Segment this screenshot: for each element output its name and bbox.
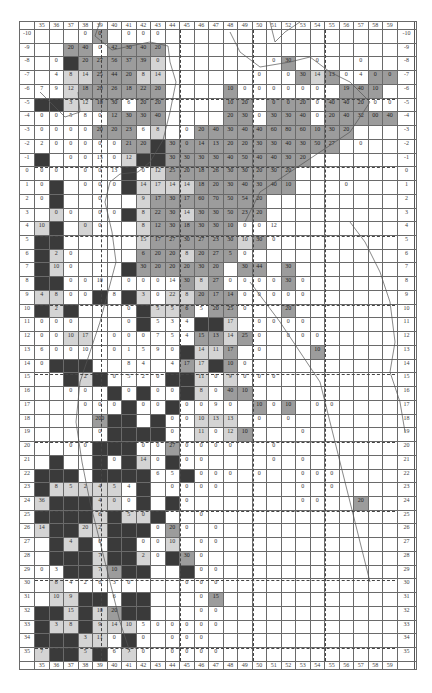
row-label-left: -7 — [20, 71, 35, 85]
grid-cell: 14 — [165, 181, 180, 195]
grid-cell — [122, 428, 137, 442]
grid-cell: 50 — [238, 153, 253, 167]
grid-table: 3536373839404142434445464748495051525354… — [19, 21, 417, 670]
grid-row: 33389141050000033 — [20, 620, 417, 634]
grid-cell — [93, 359, 108, 373]
grid-cell — [64, 236, 79, 250]
grid-cell: 0 — [122, 318, 137, 332]
grid-cell — [281, 648, 296, 662]
grid-cell — [136, 579, 151, 593]
grid-cell: 3 — [136, 290, 151, 304]
grid-cell: 0 — [310, 496, 325, 510]
grid-cell: 5 — [122, 373, 137, 387]
grid-cell: 23 — [209, 236, 224, 250]
grid-cell — [238, 565, 253, 579]
grid-cell — [281, 620, 296, 634]
grid-cell — [368, 318, 383, 332]
grid-cell — [339, 208, 354, 222]
row-label-left: 13 — [20, 345, 35, 359]
grid-cell: 20 — [78, 57, 93, 71]
grid-cell — [151, 359, 166, 373]
grid-cell — [325, 222, 340, 236]
grid-cell — [122, 181, 137, 195]
grid-cell — [35, 442, 50, 456]
grid-cell: 40 — [296, 112, 311, 126]
grid-cell — [354, 414, 369, 428]
grid-cell: 36 — [35, 496, 50, 510]
grid-cell — [296, 359, 311, 373]
grid-cell — [325, 593, 340, 607]
grid-cell — [325, 181, 340, 195]
grid-cell: 80 — [281, 126, 296, 140]
grid-cell: 15 — [64, 606, 79, 620]
grid-cell: 27 — [165, 236, 180, 250]
grid-cell: 22 — [165, 290, 180, 304]
grid-cell — [252, 538, 267, 552]
grid-cell: 9 — [136, 194, 151, 208]
grid-row: 71003020202030203044307 — [20, 263, 417, 277]
grid-cell: 20 — [107, 126, 122, 140]
row-label-left: -3 — [20, 126, 35, 140]
grid-cell — [383, 236, 398, 250]
grid-cell: 32 — [354, 112, 369, 126]
row-label-right: -8 — [397, 57, 416, 71]
grid-row: 19001101210019 — [20, 428, 417, 442]
grid-cell: 20 — [238, 98, 253, 112]
grid-cell — [49, 551, 64, 565]
grid-cell: 13 — [107, 167, 122, 181]
grid-cell — [383, 565, 398, 579]
grid-cell: 0 — [165, 414, 180, 428]
grid-cell: 20 — [296, 98, 311, 112]
grid-cell: 20 — [151, 249, 166, 263]
grid-cell: 14 — [180, 181, 195, 195]
grid-cell: 10 — [49, 593, 64, 607]
grid-cell — [122, 194, 137, 208]
grid-cell: 20 — [209, 304, 224, 318]
grid-cell — [383, 332, 398, 346]
grid-cell — [339, 565, 354, 579]
grid-cell — [339, 57, 354, 71]
grid-cell — [354, 648, 369, 662]
grid-cell: 5 — [194, 304, 209, 318]
grid-cell: 12 — [122, 153, 137, 167]
grid-cell: 2 — [78, 483, 93, 497]
grid-cell — [368, 345, 383, 359]
grid-cell — [383, 442, 398, 456]
column-label: 49 — [238, 22, 253, 30]
grid-cell: 0 — [383, 71, 398, 85]
grid-cell: 0 — [151, 30, 166, 44]
grid-cell: 00 — [368, 112, 383, 126]
grid-cell: 0 — [151, 290, 166, 304]
row-label-right: 10 — [397, 304, 416, 318]
grid-cell: 0 — [180, 414, 195, 428]
column-label: 55 — [325, 661, 340, 669]
grid-cell: 0 — [223, 442, 238, 456]
grid-cell: 0 — [281, 414, 296, 428]
grid-cell: 0 — [252, 318, 267, 332]
grid-cell — [310, 181, 325, 195]
grid-cell — [238, 510, 253, 524]
grid-cell — [354, 538, 369, 552]
grid-cell: 0 — [194, 483, 209, 497]
grid-cell: 20 — [194, 290, 209, 304]
grid-cell: 22 — [151, 208, 166, 222]
grid-cell — [281, 373, 296, 387]
grid-cell: 0 — [136, 538, 151, 552]
grid-cell: 15 — [93, 153, 108, 167]
grid-cell — [209, 318, 224, 332]
row-label-right: 18 — [397, 414, 416, 428]
grid-cell: 20 — [122, 71, 137, 85]
grid-cell: 10 — [93, 606, 108, 620]
grid-cell — [78, 593, 93, 607]
grid-cell: 11 — [194, 373, 209, 387]
grid-cell — [325, 318, 340, 332]
grid-cell: 6 — [35, 345, 50, 359]
grid-cell — [296, 222, 311, 236]
grid-cell — [296, 400, 311, 414]
grid-cell: 0 — [93, 194, 108, 208]
grid-cell: 8 — [151, 126, 166, 140]
grid-cell: 40 — [252, 126, 267, 140]
grid-row: -300002020236802040304040608060103020-3 — [20, 126, 417, 140]
corner-cell — [20, 661, 35, 669]
grid-cell — [383, 524, 398, 538]
